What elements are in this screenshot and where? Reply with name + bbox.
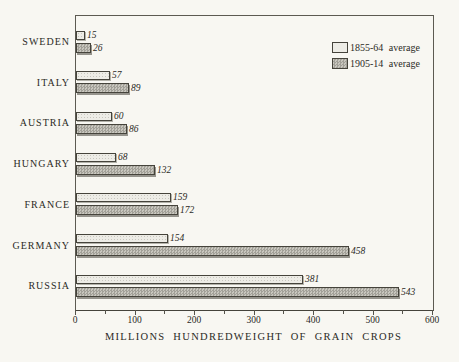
- bar-sweden-1905-14: [76, 43, 91, 53]
- bar-sweden-1855-64: [76, 31, 85, 40]
- value-label-russia-1905-14: 543: [401, 286, 415, 298]
- bar-hungary-1905-14: [76, 165, 155, 175]
- category-label-russia: RUSSIA: [2, 280, 70, 292]
- x-minor-tick-250: [224, 310, 225, 314]
- legend-item-1855-64: 1855-64 average: [332, 41, 420, 53]
- value-label-russia-1855-64: 381: [305, 274, 319, 285]
- category-label-austria: AUSTRIA: [2, 117, 70, 129]
- legend-swatch-light-icon: [332, 42, 348, 53]
- value-label-sweden-1905-14: 26: [93, 42, 103, 54]
- bar-russia-1855-64: [76, 275, 303, 284]
- bar-italy-1855-64: [76, 71, 110, 80]
- x-tick-label-300: 300: [239, 315, 269, 325]
- x-tick-label-200: 200: [179, 315, 209, 325]
- x-minor-tick-50: [105, 310, 106, 314]
- bar-italy-1905-14: [76, 83, 129, 93]
- legend-label-1905-14: 1905-14 average: [350, 58, 420, 69]
- legend-item-1905-14: 1905-14 average: [332, 57, 420, 69]
- grain-crops-bar-chart: SWEDEN1526ITALY5789AUSTRIA6086HUNGARY681…: [0, 0, 459, 362]
- x-tick-label-400: 400: [298, 315, 328, 325]
- value-label-hungary-1905-14: 132: [157, 164, 171, 176]
- bar-germany-1855-64: [76, 234, 168, 243]
- bar-france-1905-14: [76, 205, 178, 215]
- legend: 1855-64 average 1905-14 average: [332, 41, 420, 73]
- x-tick-label-0: 0: [60, 315, 90, 325]
- legend-label-1855-64: 1855-64 average: [350, 42, 420, 53]
- category-label-hungary: HUNGARY: [2, 158, 70, 170]
- category-label-italy: ITALY: [2, 77, 70, 89]
- bar-hungary-1855-64: [76, 153, 116, 162]
- value-label-france-1905-14: 172: [180, 204, 194, 216]
- bar-germany-1905-14: [76, 246, 349, 256]
- value-label-sweden-1855-64: 15: [87, 30, 97, 41]
- value-label-germany-1855-64: 154: [170, 233, 184, 244]
- x-axis-title: MILLIONS HUNDREDWEIGHT OF GRAIN CROPS: [75, 331, 432, 342]
- value-label-italy-1905-14: 89: [131, 82, 141, 94]
- value-label-austria-1855-64: 60: [114, 111, 124, 122]
- x-minor-tick-150: [164, 310, 165, 314]
- value-label-hungary-1855-64: 68: [118, 152, 128, 163]
- x-tick-label-500: 500: [358, 315, 388, 325]
- x-minor-tick-350: [283, 310, 284, 314]
- bar-austria-1855-64: [76, 112, 112, 121]
- value-label-austria-1905-14: 86: [129, 123, 139, 135]
- bar-france-1855-64: [76, 193, 171, 202]
- value-label-france-1855-64: 159: [173, 192, 187, 203]
- legend-swatch-dark-icon: [332, 58, 348, 69]
- x-minor-tick-450: [343, 310, 344, 314]
- x-tick-label-600: 600: [417, 315, 447, 325]
- bar-austria-1905-14: [76, 124, 127, 134]
- value-label-italy-1855-64: 57: [112, 70, 122, 81]
- category-label-germany: GERMANY: [2, 240, 70, 252]
- category-label-france: FRANCE: [2, 199, 70, 211]
- x-minor-tick-550: [402, 310, 403, 314]
- category-label-sweden: SWEDEN: [2, 36, 70, 48]
- x-tick-label-100: 100: [120, 315, 150, 325]
- value-label-germany-1905-14: 458: [351, 245, 365, 257]
- bar-russia-1905-14: [76, 287, 399, 297]
